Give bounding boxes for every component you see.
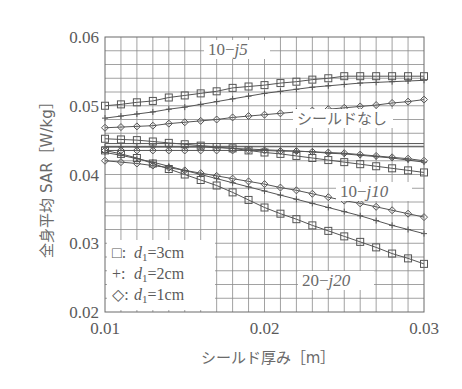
legend-item-diamond: ◇:d1=1cm <box>112 286 185 305</box>
plus-marker-icon <box>277 88 283 94</box>
plus-marker-icon <box>214 145 220 151</box>
plus-marker-icon <box>325 205 331 211</box>
plus-marker-icon <box>198 101 204 107</box>
plus-marker-icon <box>150 109 156 115</box>
annotation-label-10−j10: 10−j10 <box>340 182 389 201</box>
plus-marker-icon <box>341 81 347 87</box>
plus-marker-icon <box>389 222 395 228</box>
plus-marker-icon <box>182 104 188 110</box>
plus-marker-icon <box>118 113 124 119</box>
legend-label: d1=3cm <box>134 244 185 263</box>
plus-marker-icon <box>325 83 331 89</box>
plus-marker-icon <box>341 209 347 215</box>
square-legend-icon: □: <box>112 244 126 261</box>
plus-marker-icon <box>214 99 220 105</box>
plus-legend-icon: +: <box>112 265 125 282</box>
annotation-label-20−j20: 20−j20 <box>302 271 351 290</box>
diamond-legend-icon: ◇: <box>112 286 129 303</box>
plus-marker-icon <box>293 86 299 92</box>
x-tick-label: 0.01 <box>90 319 120 338</box>
plus-marker-icon <box>357 80 363 86</box>
plus-marker-icon <box>230 96 236 102</box>
legend-item-square: □:d1=3cm <box>112 244 185 263</box>
plus-marker-icon <box>405 227 411 233</box>
plus-marker-icon <box>246 93 252 99</box>
x-axis-label: シールド厚み［m］ <box>201 349 336 367</box>
plus-marker-icon <box>166 106 172 112</box>
x-tick-label: 0.03 <box>409 319 439 338</box>
plus-marker-icon <box>262 90 268 96</box>
plus-marker-icon <box>262 188 268 194</box>
plus-marker-icon <box>309 200 315 206</box>
plus-marker-icon <box>309 84 315 90</box>
plus-marker-icon <box>373 218 379 224</box>
plus-marker-icon <box>293 196 299 202</box>
annotation-label-10−j5: 10−j5 <box>208 40 248 59</box>
annotations: 10−j5シールドなし10−j1020−j20 <box>204 40 412 290</box>
plus-marker-icon <box>357 213 363 219</box>
plus-marker-icon <box>277 192 283 198</box>
plus-marker-icon <box>373 79 379 85</box>
legend: □:d1=3cm+:d1=2cm◇:d1=1cm <box>107 240 215 310</box>
y-tick-label: 0.06 <box>69 28 99 47</box>
y-axis-ticks: 0.020.030.040.050.06 <box>69 28 99 322</box>
legend-item-plus: +:d1=2cm <box>112 265 185 284</box>
plus-marker-icon <box>134 111 140 117</box>
y-axis-label: 全身平均 SAR［W/kg］ <box>38 94 56 257</box>
annotation-label-no-shield: シールドなし <box>297 110 387 128</box>
y-tick-label: 0.03 <box>69 234 99 253</box>
y-tick-label: 0.04 <box>69 166 99 185</box>
sar-chart: 10−j5シールドなし10−j1020−j20 □:d1=3cm+:d1=2cm… <box>0 0 462 389</box>
plus-marker-icon <box>405 78 411 84</box>
legend-label: d1=2cm <box>134 265 185 284</box>
x-axis-ticks: 0.010.020.03 <box>90 319 439 338</box>
legend-label: d1=1cm <box>134 286 185 305</box>
x-tick-label: 0.02 <box>250 319 280 338</box>
y-tick-label: 0.05 <box>69 97 99 116</box>
